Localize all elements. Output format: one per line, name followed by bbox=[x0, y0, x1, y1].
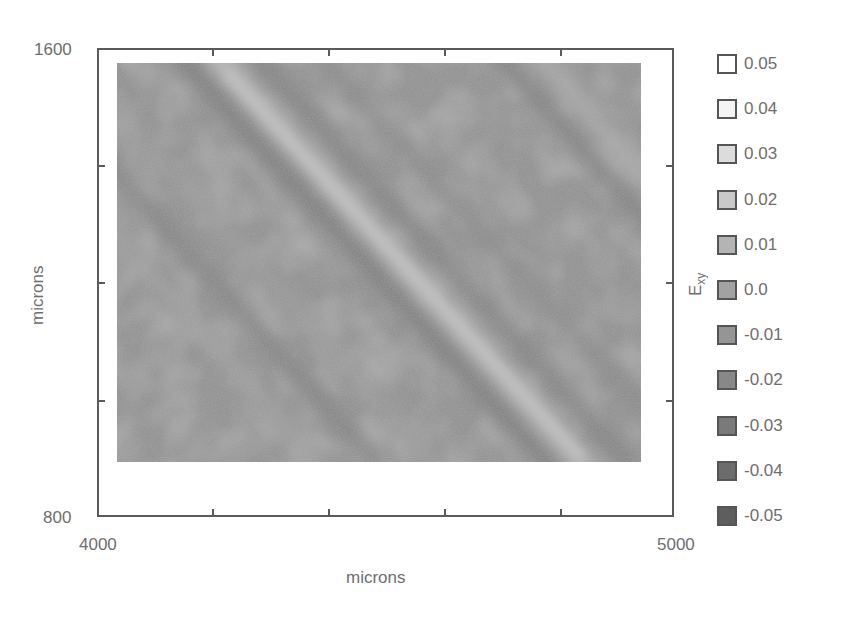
legend-item: 0.0 bbox=[717, 280, 768, 300]
x-tick-top bbox=[444, 48, 446, 56]
x-tick-bottom bbox=[328, 509, 330, 517]
legend-label: 0.02 bbox=[744, 190, 777, 210]
legend-swatch bbox=[717, 280, 737, 300]
x-tick-label-min: 4000 bbox=[79, 535, 117, 555]
legend-swatch bbox=[717, 461, 737, 481]
legend-label: -0.05 bbox=[744, 506, 783, 526]
y-tick-right bbox=[666, 165, 674, 167]
x-tick-bottom bbox=[212, 509, 214, 517]
legend-label: -0.01 bbox=[744, 325, 783, 345]
legend-item: 0.04 bbox=[717, 99, 777, 119]
x-tick-top bbox=[212, 48, 214, 56]
legend-item: -0.05 bbox=[717, 506, 783, 526]
colorbar-title-main: E bbox=[686, 285, 705, 296]
legend-swatch bbox=[717, 370, 737, 390]
y-tick-label-min: 800 bbox=[43, 508, 71, 528]
legend-item: -0.01 bbox=[717, 325, 783, 345]
x-tick-top bbox=[328, 48, 330, 56]
legend-swatch bbox=[717, 190, 737, 210]
legend-swatch bbox=[717, 325, 737, 345]
x-tick-bottom bbox=[560, 509, 562, 517]
legend-swatch bbox=[717, 144, 737, 164]
legend-label: 0.05 bbox=[744, 54, 777, 74]
legend-label: 0.04 bbox=[744, 99, 777, 119]
legend-swatch bbox=[717, 506, 737, 526]
legend-label: 0.0 bbox=[744, 280, 768, 300]
legend-item: -0.02 bbox=[717, 370, 783, 390]
heatmap-image bbox=[117, 63, 641, 462]
legend-label: -0.04 bbox=[744, 461, 783, 481]
colorbar-title-sub: xy bbox=[694, 273, 708, 285]
legend-item: -0.03 bbox=[717, 416, 783, 436]
legend-swatch bbox=[717, 99, 737, 119]
legend-item: 0.02 bbox=[717, 190, 777, 210]
legend-swatch bbox=[717, 235, 737, 255]
legend-label: 0.01 bbox=[744, 235, 777, 255]
y-tick-label-max: 1600 bbox=[34, 40, 72, 60]
strain-heatmap bbox=[117, 63, 641, 462]
y-axis-title: microns bbox=[28, 265, 48, 325]
x-tick-bottom bbox=[444, 509, 446, 517]
legend-label: -0.02 bbox=[744, 370, 783, 390]
y-tick-left bbox=[97, 165, 105, 167]
y-tick-right bbox=[666, 282, 674, 284]
y-tick-left bbox=[97, 400, 105, 402]
colorbar-title: Exy bbox=[686, 273, 708, 296]
y-tick-right bbox=[666, 400, 674, 402]
legend-label: -0.03 bbox=[744, 416, 783, 436]
legend-swatch bbox=[717, 54, 737, 74]
y-tick-left bbox=[97, 282, 105, 284]
legend-item: 0.03 bbox=[717, 144, 777, 164]
legend-label: 0.03 bbox=[744, 144, 777, 164]
legend-item: -0.04 bbox=[717, 461, 783, 481]
x-axis-title: microns bbox=[346, 568, 406, 588]
legend-swatch bbox=[717, 416, 737, 436]
x-tick-label-max: 5000 bbox=[657, 535, 695, 555]
x-tick-top bbox=[560, 48, 562, 56]
legend-item: 0.01 bbox=[717, 235, 777, 255]
legend-item: 0.05 bbox=[717, 54, 777, 74]
